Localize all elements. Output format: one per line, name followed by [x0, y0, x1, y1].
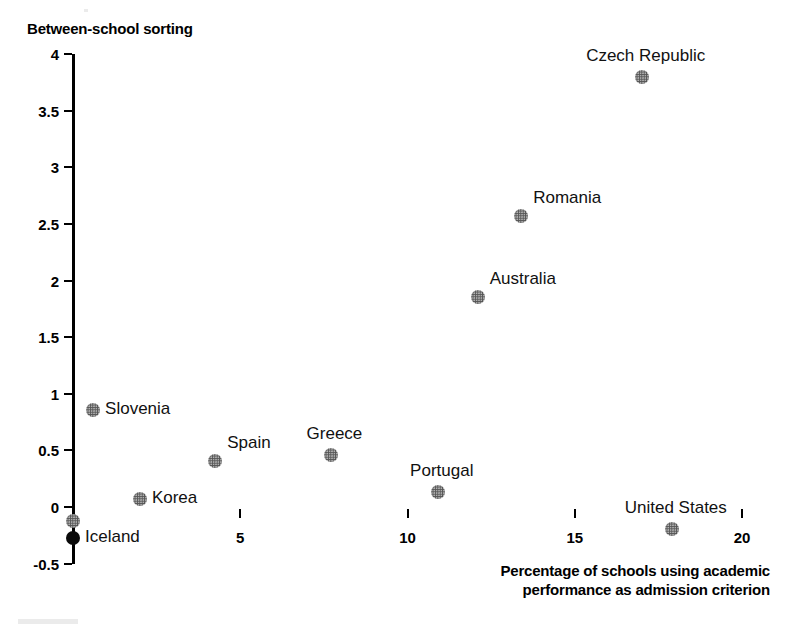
y-tick-label: -0.5: [0, 555, 59, 572]
y-tick-label: 1: [0, 385, 59, 402]
x-tick-label: 20: [734, 529, 751, 546]
y-tick-mark: [64, 166, 72, 168]
data-point[interactable]: [635, 70, 649, 84]
data-point[interactable]: [66, 531, 80, 545]
y-tick-mark: [64, 223, 72, 225]
y-tick-label: 3.5: [0, 102, 59, 119]
data-point-label: Portugal: [410, 461, 473, 481]
data-point[interactable]: [324, 448, 338, 462]
data-point[interactable]: [66, 514, 80, 528]
y-axis-line: [72, 54, 75, 564]
y-tick-mark: [64, 563, 72, 565]
plot-area: -0.500.511.522.533.545101520Czech Republ…: [0, 0, 786, 630]
y-tick-label: 0.5: [0, 442, 59, 459]
data-point[interactable]: [471, 290, 485, 304]
y-tick-label: 2.5: [0, 215, 59, 232]
data-point-label: Czech Republic: [586, 46, 705, 66]
y-tick-label: 0: [0, 499, 59, 516]
y-tick-mark: [64, 53, 72, 55]
y-tick-mark: [64, 110, 72, 112]
data-point-label: Greece: [307, 424, 363, 444]
x-axis-title-line2: performance as admission criterion: [523, 581, 770, 598]
chart-figure: -0.500.511.522.533.545101520Czech Republ…: [0, 0, 786, 630]
data-point-label: Spain: [227, 433, 270, 453]
y-tick-mark: [64, 393, 72, 395]
x-tick-mark: [741, 509, 743, 518]
data-point-label: Iceland: [85, 527, 140, 547]
x-tick-mark: [407, 509, 409, 518]
x-axis-title-line1: Percentage of schools using academic: [500, 562, 770, 579]
y-tick-mark: [64, 280, 72, 282]
data-point[interactable]: [665, 522, 679, 536]
data-point-label: Korea: [152, 488, 197, 508]
x-tick-label: 10: [399, 529, 416, 546]
x-tick-label: 15: [566, 529, 583, 546]
data-point[interactable]: [431, 485, 445, 499]
data-point-label: Slovenia: [105, 399, 170, 419]
y-tick-label: 4: [0, 46, 59, 63]
x-tick-mark: [239, 509, 241, 518]
y-axis-title: Between-school sorting: [27, 20, 193, 37]
data-point[interactable]: [514, 209, 528, 223]
y-tick-label: 2: [0, 272, 59, 289]
data-point[interactable]: [133, 492, 147, 506]
y-tick-mark: [64, 506, 72, 508]
data-point-label: Romania: [533, 188, 601, 208]
x-tick-label: 5: [236, 529, 244, 546]
y-tick-label: 1.5: [0, 329, 59, 346]
data-point[interactable]: [208, 454, 222, 468]
y-tick-mark: [64, 449, 72, 451]
x-axis-title: Percentage of schools using academic per…: [380, 562, 770, 600]
y-tick-mark: [64, 336, 72, 338]
data-point-label: United States: [625, 498, 727, 518]
x-tick-mark: [574, 509, 576, 518]
data-point-label: Australia: [490, 269, 556, 289]
data-point[interactable]: [86, 403, 100, 417]
y-tick-label: 3: [0, 159, 59, 176]
